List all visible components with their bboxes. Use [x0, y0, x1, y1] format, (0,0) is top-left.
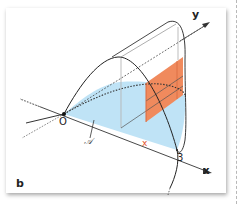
- panel-label: b: [16, 178, 24, 189]
- x-axis-label: x: [203, 166, 209, 176]
- y-axis-label: y: [192, 9, 199, 20]
- top-ridge-back: [121, 24, 176, 57]
- tick-3-point: [176, 149, 178, 151]
- tick-label-3: 3: [177, 153, 183, 163]
- origin-label: O: [59, 117, 67, 127]
- top-ridge-front: [112, 22, 168, 57]
- front-parabola-tail: [168, 188, 170, 195]
- lower-guide-line: [22, 114, 64, 138]
- region-label: 𝒜: [84, 137, 93, 146]
- slice-position-label: x: [142, 139, 147, 148]
